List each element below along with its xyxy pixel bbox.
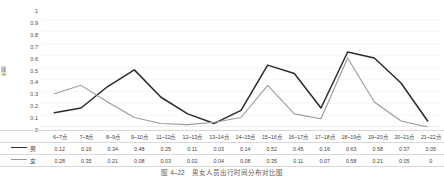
table-column-header: 17~18点 xyxy=(311,131,337,143)
table-header-row: 6~7点7~8点8~9点9~10点11~12点12~13点13~14点14~15… xyxy=(0,131,444,143)
table-cell: 0.08 xyxy=(232,155,258,167)
table-corner-cell xyxy=(0,131,47,143)
table-cell: 0 xyxy=(417,155,444,167)
legend-item-male[interactable]: 男 xyxy=(0,143,47,155)
y-axis-tick-label: 0.2 xyxy=(14,103,38,109)
line-chart: 比例 10.90.80.70.60.50.40.30.20.10 xyxy=(0,8,444,130)
table-cell: 0.58 xyxy=(338,155,364,167)
y-axis-tick-label: 0.5 xyxy=(14,68,38,74)
table-column-header: 20~21点 xyxy=(391,131,417,143)
table-column-header: 21~22点 xyxy=(417,131,444,143)
table-cell: 0.58 xyxy=(364,143,390,155)
table-column-header: 12~13点 xyxy=(179,131,205,143)
table-cell: 0.37 xyxy=(391,143,417,155)
data-table: 6~7点7~8点8~9点9~10点11~12点12~13点13~14点14~15… xyxy=(0,130,444,167)
legend-swatch-icon xyxy=(11,159,27,160)
table-cell: 0.16 xyxy=(73,143,99,155)
table-column-header: 8~9点 xyxy=(100,131,126,143)
table-cell: 0.14 xyxy=(232,143,258,155)
legend-swatch-icon xyxy=(11,147,27,148)
legend-item-female[interactable]: 女 xyxy=(0,155,47,167)
table-column-header: 18~19点 xyxy=(338,131,364,143)
y-axis-tick-label: 0.9 xyxy=(14,20,38,26)
table-cell: 0.35 xyxy=(259,155,285,167)
table-cell: 0.07 xyxy=(311,155,337,167)
y-axis-tick-label: 0.8 xyxy=(14,32,38,38)
table-cell: 0.03 xyxy=(206,143,232,155)
table-cell: 0.34 xyxy=(100,143,126,155)
series-lines xyxy=(54,52,427,127)
table-column-header: 11~12点 xyxy=(153,131,179,143)
data-table-area: 6~7点7~8点8~9点9~10点11~12点12~13点13~14点14~15… xyxy=(0,130,444,163)
y-axis-tick-label: 1 xyxy=(14,8,38,14)
y-axis-title: 比例 xyxy=(1,66,13,76)
table-column-header: 6~7点 xyxy=(47,131,73,143)
figure-container: 比例 10.90.80.70.60.50.40.30.20.10 6~7点7~8… xyxy=(0,0,444,179)
y-axis-tick-label: 0.3 xyxy=(14,91,38,97)
figure-caption: 图 4–22 男女人员出行时间分布对比图 xyxy=(0,168,444,177)
table-cell: 0.25 xyxy=(153,143,179,155)
table-cell: 0.08 xyxy=(126,155,152,167)
table-column-header: 13~14点 xyxy=(206,131,232,143)
series-line xyxy=(54,52,427,123)
table-column-header: 16~17点 xyxy=(285,131,311,143)
table-cell: 0.35 xyxy=(73,155,99,167)
table-cell: 0.11 xyxy=(285,155,311,167)
table-cell: 0.05 xyxy=(391,155,417,167)
plot-svg xyxy=(41,8,441,127)
table-cell: 0.03 xyxy=(153,155,179,167)
legend-label: 男 xyxy=(30,146,36,152)
series-line xyxy=(54,58,427,127)
y-axis-tick-label: 0.6 xyxy=(14,56,38,62)
table-cell: 0.21 xyxy=(364,155,390,167)
table-row: 女0.280.350.210.080.030.020.040.080.350.1… xyxy=(0,155,444,167)
table-column-header: 15~16点 xyxy=(259,131,285,143)
y-axis-tick-label: 0.1 xyxy=(14,115,38,121)
table-column-header: 7~8点 xyxy=(73,131,99,143)
table-column-header: 9~10点 xyxy=(126,131,152,143)
table-cell: 0.02 xyxy=(179,155,205,167)
table-cell: 0.63 xyxy=(338,143,364,155)
y-axis-tick-label: 0.4 xyxy=(14,79,38,85)
plot-area xyxy=(41,8,441,127)
table-column-header: 14~15点 xyxy=(232,131,258,143)
table-cell: 0.12 xyxy=(47,143,73,155)
table-column-header: 19~20点 xyxy=(364,131,390,143)
table-cell: 0.05 xyxy=(417,143,444,155)
table-row: 男0.120.160.340.480.250.110.030.140.520.4… xyxy=(0,143,444,155)
table-cell: 0.45 xyxy=(285,143,311,155)
table-cell: 0.16 xyxy=(311,143,337,155)
table-cell: 0.21 xyxy=(100,155,126,167)
table-cell: 0.52 xyxy=(259,143,285,155)
y-axis-tick-label: 0.7 xyxy=(14,44,38,50)
table-cell: 0.11 xyxy=(179,143,205,155)
table-cell: 0.28 xyxy=(47,155,73,167)
table-cell: 0.04 xyxy=(206,155,232,167)
y-axis-tick-labels: 10.90.80.70.60.50.40.30.20.10 xyxy=(14,8,38,130)
legend-label: 女 xyxy=(30,158,36,164)
table-cell: 0.48 xyxy=(126,143,152,155)
